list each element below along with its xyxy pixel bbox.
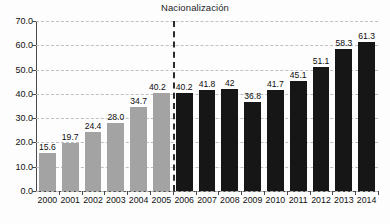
x-axis-tick-label: 2011 [289,195,308,205]
x-axis-tick-label: 2002 [83,195,103,205]
bar [153,93,170,191]
x-axis-tick-mark [287,191,288,195]
bar [130,107,147,191]
x-axis-tick-label: 2005 [152,195,172,205]
x-axis-tick-label: 2013 [334,195,354,205]
bar-value-label: 45.1 [290,70,307,80]
bar-value-label: 15.6 [39,142,56,152]
gridline [36,21,378,22]
gridline [36,191,378,192]
bar [62,143,79,191]
x-axis-tick-label: 2007 [197,195,217,205]
bar-value-label: 34.7 [130,96,147,106]
x-axis-tick-label: 2003 [106,195,126,205]
y-axis-tick-label: 40.0 [0,89,33,99]
y-axis-tick-label: 20.0 [0,137,33,147]
gridline [36,45,378,46]
bar [313,67,330,191]
y-axis-tick-label: 50.0 [0,65,33,75]
bar-value-label: 40.2 [149,82,166,92]
x-axis-tick-label: 2000 [38,195,58,205]
bar-value-label: 40.2 [176,82,193,92]
bar [85,132,102,191]
bar-value-label: 41.7 [267,79,284,89]
bar [39,153,56,191]
bar [176,93,193,191]
bar [244,102,261,191]
bar-value-label: 24.4 [85,121,102,131]
x-axis-tick-label: 2001 [60,195,80,205]
x-axis-tick-label: 2009 [243,195,263,205]
x-axis-tick-label: 2014 [357,195,377,205]
bar-value-label: 51.1 [313,56,330,66]
y-axis-tick-label: 60.0 [0,40,33,50]
bar-value-label: 28.0 [107,112,124,122]
bar-value-label: 41.8 [199,79,216,89]
plot-area: 15.619.724.428.034.740.240.241.84236.841… [36,21,378,191]
y-axis-tick-label: 0.0 [0,186,33,196]
bar-value-label: 36.8 [244,91,261,101]
bar [221,89,238,191]
y-axis-tick-label: 70.0 [0,16,33,26]
bar-value-label: 58.3 [335,38,352,48]
x-axis-tick-label: 2012 [311,195,331,205]
bar [199,90,216,192]
x-axis-tick-label: 2004 [129,195,149,205]
chart-title: Nacionalización [0,2,390,13]
bar [335,49,352,191]
x-axis-tick-label: 2008 [220,195,240,205]
bar [267,90,284,191]
bar [107,123,124,191]
chart-figure: Nacionalización 0.010.020.030.040.050.06… [0,0,390,224]
bar-value-label: 61.3 [358,31,375,41]
x-axis-tick-label: 2010 [266,195,286,205]
bar [290,81,307,191]
y-axis-tick-label: 10.0 [0,162,33,172]
x-axis-tick-mark [378,191,379,195]
bar-value-label: 19.7 [62,132,79,142]
bar [358,42,375,191]
y-axis-tick-label: 30.0 [0,113,33,123]
x-axis-tick-label: 2006 [174,195,194,205]
bar-value-label: 42 [225,78,235,88]
nacionalizacion-divider-line [173,21,175,191]
